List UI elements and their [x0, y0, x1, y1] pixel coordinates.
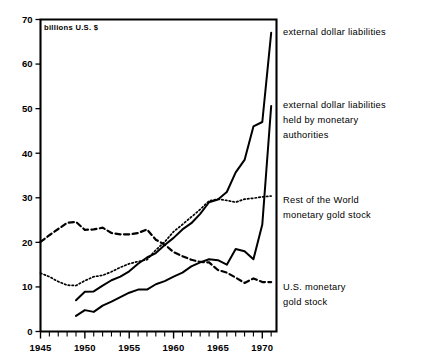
- x-tick-label: 1970: [251, 342, 273, 353]
- annotation-held-by-monetary-authorities-line2: held by monetary: [283, 115, 358, 125]
- x-tick-label: 1945: [30, 342, 52, 353]
- y-tick-label: 10: [22, 281, 33, 292]
- annotation-held-by-monetary-authorities-line1: external dollar liabilities: [283, 100, 386, 110]
- annotation-rest-of-world-gold-line2: monetary gold stock: [283, 210, 371, 220]
- y-tick-label: 40: [22, 148, 33, 159]
- x-tick-label: 1950: [74, 342, 96, 353]
- chart-figure: 010203040506070 194519501955196019651970…: [0, 0, 426, 364]
- annotation-us-monetary-gold-line1: U.S. monetary: [283, 282, 346, 292]
- x-tick-label: 1960: [163, 342, 185, 353]
- y-tick-label: 50: [22, 103, 33, 114]
- x-tick-label: 1955: [118, 342, 140, 353]
- y-tick-label: 70: [22, 14, 33, 25]
- units-note: billions U.S. $: [44, 23, 99, 32]
- y-tick-label: 30: [22, 192, 33, 203]
- y-tick-label: 20: [22, 237, 33, 248]
- annotation-held-by-monetary-authorities-line3: authorities: [283, 130, 329, 140]
- annotation-rest-of-world-gold-line1: Rest of the World: [283, 195, 359, 205]
- annotation-us-monetary-gold-line2: gold stock: [283, 297, 327, 307]
- y-tick-label: 60: [22, 58, 33, 69]
- annotation-external-dollar-liabilities: external dollar liabilities: [283, 27, 386, 37]
- y-tick-label: 0: [27, 326, 32, 337]
- x-tick-label: 1965: [207, 342, 229, 353]
- chart-svg: 010203040506070 194519501955196019651970…: [0, 0, 426, 364]
- chart-background: [0, 0, 426, 364]
